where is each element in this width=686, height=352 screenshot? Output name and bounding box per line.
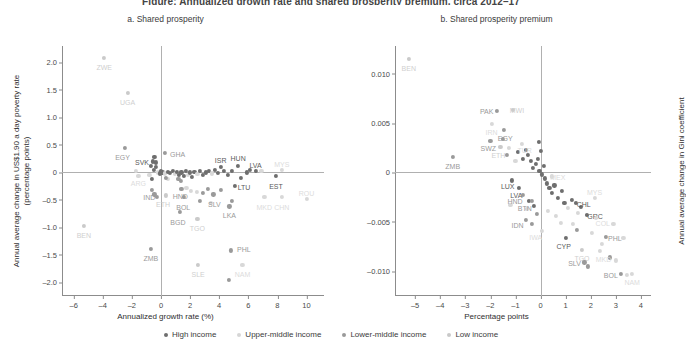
data-point-label: BGD [170, 219, 185, 227]
data-point [233, 184, 237, 188]
data-point [513, 159, 517, 163]
data-point [451, 155, 455, 159]
data-point [502, 128, 506, 132]
data-point-label: LUX [501, 183, 515, 191]
data-point [163, 151, 167, 155]
legend-label: Lower-middle income [350, 330, 426, 339]
y-axis-tick-label: –0.005 [367, 217, 395, 226]
legend: High incomeUpper-middle incomeLower-midd… [0, 330, 662, 339]
x-axis-tick-label: –5 [411, 296, 419, 310]
data-point [523, 218, 527, 222]
data-point [541, 163, 545, 167]
panel-b-title: b. Shared prosperity premium [331, 14, 662, 24]
panel-b-x-axis-label: Percentage points [331, 312, 662, 321]
data-point [575, 228, 579, 232]
data-point [531, 165, 535, 169]
data-point-label: ZWE [96, 64, 112, 72]
y-axis-tick-label: –2.0 [42, 278, 62, 287]
data-point [82, 224, 86, 228]
panel-b: b. Shared prosperity premium Annual aver… [331, 0, 662, 352]
data-point [195, 190, 199, 194]
data-point [625, 273, 629, 277]
y-axis-tick-label: –1.0 [42, 223, 62, 232]
x-axis-tick-label: 8 [275, 296, 279, 310]
x-axis-tick-label: 2 [188, 296, 192, 310]
data-point [189, 188, 193, 192]
data-point [219, 188, 223, 192]
data-point-label: UGA [120, 99, 135, 107]
x-axis-tick-label: –2 [486, 296, 494, 310]
x-axis-tick-label: 2 [589, 296, 593, 310]
panel-a-plot-area: 2.01.51.00.50–0.5–1.0–1.5–2.0–6–4–202468… [62, 46, 324, 296]
data-point [196, 263, 200, 267]
x-axis-tick-label: 0 [538, 296, 542, 310]
legend-label: Low income [455, 330, 498, 339]
data-point [150, 177, 154, 181]
data-point-label: TUR [518, 147, 532, 155]
data-point-label: SLE [191, 271, 204, 279]
x-axis-tick-label: –2 [128, 296, 136, 310]
data-point [530, 222, 534, 226]
data-point [149, 247, 153, 251]
data-point [590, 231, 594, 235]
panel-b-x-axis-line [395, 295, 651, 296]
data-point [550, 191, 554, 195]
panel-b-y-axis-line [395, 46, 396, 296]
data-point [560, 189, 564, 193]
x-axis-tick-label: 4 [639, 296, 643, 310]
data-point [619, 272, 623, 276]
legend-label: High income [172, 330, 216, 339]
y-axis-tick-label: 2.0 [47, 58, 62, 67]
data-point [227, 277, 231, 281]
data-point [498, 145, 502, 149]
data-point-label: IRN [486, 129, 498, 137]
data-point [205, 187, 209, 191]
data-point-label: PHL [608, 235, 622, 243]
data-point [521, 157, 525, 161]
data-point [179, 187, 183, 191]
data-point-label: SLV [568, 260, 581, 268]
data-point-label: CHL [577, 201, 591, 209]
x-axis-tick-label: –4 [436, 296, 444, 310]
y-axis-label-line2: (percentage points) [22, 46, 32, 296]
data-point-label: COL [596, 220, 610, 228]
data-point-label: PAK [480, 108, 494, 116]
data-point-label: ETH [491, 152, 505, 160]
data-point [571, 222, 575, 226]
legend-swatch-icon [237, 333, 241, 337]
data-point [236, 164, 240, 168]
data-point-label: NAM [235, 271, 251, 279]
data-point [490, 122, 494, 126]
data-point [547, 186, 551, 190]
data-point-label: ZMB [143, 255, 158, 263]
data-point-label: ISR [215, 157, 227, 165]
legend-item-1[interactable]: Upper-middle income [237, 330, 321, 339]
y-axis-tick-label: 0.005 [371, 119, 395, 128]
data-point [164, 193, 168, 197]
data-point [190, 175, 194, 179]
legend-item-0[interactable]: High income [164, 330, 216, 339]
legend-item-3[interactable]: Low income [447, 330, 498, 339]
data-point-label: SLV [208, 201, 221, 209]
data-point-label: IND [143, 194, 155, 202]
data-point-label: NAM [624, 279, 640, 287]
data-point-label: MWI [510, 107, 524, 115]
data-point [179, 179, 183, 183]
legend-item-2[interactable]: Lower-middle income [342, 330, 426, 339]
data-point [274, 174, 278, 178]
data-point-label: MKD [596, 256, 612, 264]
data-point [239, 176, 243, 180]
data-point [122, 146, 126, 150]
data-point-label: EGY [115, 154, 130, 162]
data-point [540, 229, 544, 233]
data-point [597, 248, 601, 252]
data-point-label: MYS [587, 189, 602, 197]
data-point [510, 178, 514, 182]
legend-swatch-icon [342, 333, 346, 337]
data-point-label: LKA [223, 212, 236, 220]
y-axis-tick-label: 1.5 [47, 85, 62, 94]
data-point [559, 221, 563, 225]
data-point-label: GHA [170, 151, 185, 159]
panel-a-y-axis-line [62, 46, 63, 296]
